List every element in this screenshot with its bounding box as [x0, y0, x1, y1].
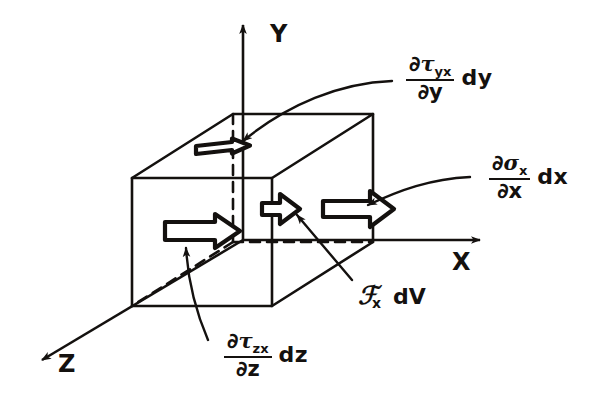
label-tau-yx: ∂τyx ∂y dy	[406, 53, 493, 103]
partial-symbol: ∂	[409, 52, 420, 76]
tau-symbol: τ	[420, 51, 434, 76]
fraction-numerator: ∂σx	[489, 152, 530, 180]
body-force-subscript: x	[372, 295, 381, 311]
label-sigma-x: ∂σx ∂x dx	[489, 152, 568, 202]
differential-dx: dx	[537, 166, 568, 188]
label-tau-zx: ∂τzx ∂z dz	[224, 330, 308, 380]
differential-dy: dy	[461, 67, 492, 89]
denominator-variable: y	[429, 80, 443, 104]
denominator-variable: x	[509, 179, 523, 203]
partial-symbol: ∂	[492, 151, 503, 175]
right-face-normal-arrow	[323, 191, 394, 227]
fraction-sigma-x: ∂σx ∂x	[489, 152, 530, 202]
fraction-denominator: ∂x	[489, 180, 530, 202]
stress-arrows-group	[165, 139, 394, 249]
body-force-differential: dV	[393, 286, 426, 308]
axis-label-y: Y	[270, 22, 288, 46]
partial-symbol: ∂	[236, 357, 247, 381]
tau-subscript: zx	[253, 341, 269, 356]
front-face-shear-arrow	[165, 214, 240, 248]
denominator-variable: z	[247, 357, 259, 381]
axis-label-x: X	[452, 250, 471, 274]
partial-symbol: ∂	[497, 179, 508, 203]
differential-dz: dz	[279, 344, 309, 366]
body-force-symbol-wrap: ℱx	[358, 283, 387, 308]
fraction-numerator: ∂τyx	[406, 53, 454, 81]
fraction-numerator: ∂τzx	[224, 330, 272, 358]
leader-tau-yx	[243, 81, 392, 141]
tau-subscript: yx	[435, 64, 452, 79]
fraction-tau-zx: ∂τzx ∂z	[224, 330, 272, 380]
tau-symbol: τ	[238, 328, 252, 353]
label-body-force: ℱx dV	[358, 283, 426, 308]
partial-symbol: ∂	[418, 80, 429, 104]
cube-top-face-edges	[132, 114, 373, 178]
leader-body-force	[297, 215, 352, 280]
partial-symbol: ∂	[227, 329, 238, 353]
sigma-subscript: x	[519, 163, 527, 178]
center-body-force-arrow	[262, 194, 300, 224]
axis-label-z: Z	[58, 352, 76, 376]
sigma-symbol: σ	[503, 150, 518, 175]
fraction-denominator: ∂y	[406, 81, 454, 103]
fraction-tau-yx: ∂τyx ∂y	[406, 53, 454, 103]
stress-element-figure: Y X Z ∂τyx ∂y dy ∂σx ∂x dx ∂τzx ∂z dz ℱx…	[0, 0, 601, 416]
fraction-denominator: ∂z	[224, 358, 272, 380]
